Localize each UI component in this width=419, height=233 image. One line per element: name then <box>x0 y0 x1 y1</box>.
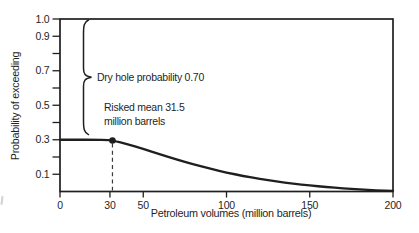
dry-hole-brace <box>84 20 92 135</box>
x-tick-label: 0 <box>57 199 63 211</box>
y-tick-label: 0.5 <box>36 99 50 111</box>
y-axis-title: Probability of exceeding <box>9 52 21 161</box>
x-tick-label: 50 <box>138 199 150 211</box>
risked-mean-annotation: Risked mean 31.5 million barrels <box>104 101 185 128</box>
y-tick-label: 0.9 <box>36 30 50 42</box>
risked-mean-line1: Risked mean 31.5 <box>104 101 185 115</box>
y-tick-label: 0.7 <box>36 64 50 76</box>
risked-mean-line2: million barrels <box>104 115 185 129</box>
probability-curve <box>60 140 393 191</box>
dry-hole-probability-annotation: Dry hole probability 0.70 <box>97 71 204 85</box>
chart-canvas: 0.10.30.50.70.91.003050100150200 <box>0 0 419 233</box>
y-tick-label: 0.1 <box>36 168 50 180</box>
exceedance-probability-chart: 0.10.30.50.70.91.003050100150200 Probabi… <box>0 0 419 233</box>
x-tick-label: 30 <box>104 199 116 211</box>
y-tick-label: 0.3 <box>36 133 50 145</box>
x-axis-title: Petroleum volumes (million barrels) <box>151 207 311 219</box>
risked-mean-marker <box>109 137 116 144</box>
x-tick-label: 200 <box>385 199 402 211</box>
y-tick-label: 1.0 <box>36 13 50 25</box>
